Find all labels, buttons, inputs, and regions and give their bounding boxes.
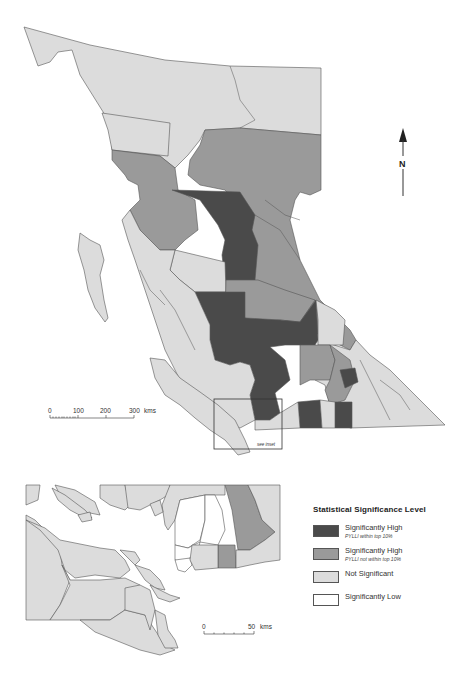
legend-label: Significantly Low xyxy=(345,592,401,601)
inset-map: 0 50 kms xyxy=(0,470,300,692)
inset-locator-label: see inset xyxy=(257,442,276,447)
main-map: see inset 0 100 200 300 kms N xyxy=(0,0,469,470)
main-scale-tick-200: 200 xyxy=(100,407,111,414)
north-arrow: N xyxy=(399,128,407,196)
legend-swatch-sig-low xyxy=(313,594,339,606)
legend-sublabel: PYLLI within top 10% xyxy=(345,532,403,541)
legend-sublabel: PYLLI not within top 10% xyxy=(345,555,403,564)
region-haida-gwaii[interactable] xyxy=(78,233,108,322)
inset-region-langley[interactable] xyxy=(190,545,218,570)
region-south-dark-1[interactable] xyxy=(298,400,322,428)
legend-item-sig-low: Significantly Low xyxy=(313,592,469,614)
inset-scale-unit: kms xyxy=(260,623,273,630)
main-scale-tick-0: 0 xyxy=(48,407,52,414)
legend-swatch-not-significant xyxy=(313,571,339,583)
inset-region-gulf-3[interactable] xyxy=(150,585,180,602)
main-scale-unit: kms xyxy=(144,407,157,414)
inset-scale-tick-0: 0 xyxy=(202,623,206,630)
legend: Statistical Significance Level Significa… xyxy=(313,505,469,615)
legend-item-sig-high-top10: Significantly High PYLLI within top 10% xyxy=(313,523,469,545)
region-south-dark-2[interactable] xyxy=(335,402,352,428)
region-northwest-coast[interactable] xyxy=(112,150,198,250)
legend-item-not-significant: Not Significant xyxy=(313,569,469,591)
inset-scale-bar xyxy=(204,631,254,634)
legend-swatch-sig-high-top10 xyxy=(313,525,339,537)
legend-label: Significantly High xyxy=(345,546,403,555)
main-scale-tick-300: 300 xyxy=(129,407,140,414)
main-scale-tick-100: 100 xyxy=(73,407,84,414)
north-arrow-head-icon xyxy=(399,128,407,142)
region-east-central[interactable] xyxy=(316,300,345,345)
region-south-medium-1[interactable] xyxy=(300,345,335,385)
legend-swatch-sig-high-not-top10 xyxy=(313,548,339,560)
inset-region-nw-corner[interactable] xyxy=(26,485,40,505)
main-scale-bar xyxy=(50,415,134,418)
inset-region-delta[interactable] xyxy=(175,558,192,572)
legend-label: Significantly High xyxy=(345,523,403,532)
north-label: N xyxy=(399,159,406,169)
legend-title: Statistical Significance Level xyxy=(313,505,469,514)
inset-region-abbotsford[interactable] xyxy=(218,545,236,568)
legend-item-sig-high-not-top10: Significantly High PYLLI not within top … xyxy=(313,546,469,568)
region-south-light-2[interactable] xyxy=(320,400,335,428)
legend-label: Not Significant xyxy=(345,569,393,578)
inset-scale-tick-50: 50 xyxy=(248,623,256,630)
